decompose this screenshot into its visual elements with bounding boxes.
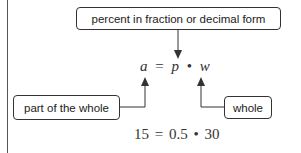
formula-equals: =	[155, 58, 163, 74]
example-equation: 15 = 0.5 • 30	[134, 126, 219, 143]
formula-p: p	[171, 58, 179, 74]
formula-a: a	[140, 58, 148, 74]
arrow-up-icon	[141, 77, 149, 86]
percent-equation-diagram: percent in fraction or decimal form part…	[0, 0, 301, 153]
formula: a = p • w	[140, 58, 210, 75]
formula-w: w	[200, 58, 210, 74]
arrow-up-icon	[197, 77, 205, 86]
formula-dot: •	[187, 58, 192, 74]
